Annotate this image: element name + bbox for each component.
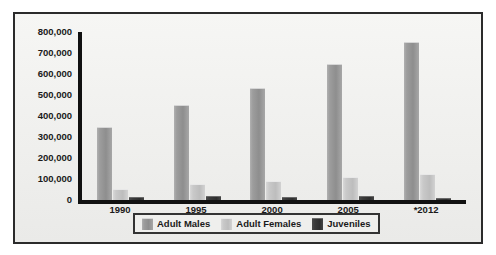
bar-juveniles [359, 196, 374, 200]
bar-juveniles [129, 197, 144, 200]
plot-area: 800,000700,000600,000500,000400,000300,0… [78, 32, 462, 200]
y-axis-tick-label: 300,000 [6, 132, 72, 142]
bar-adult-males [174, 105, 189, 201]
bar-adult-females [343, 177, 358, 200]
bar-juveniles [206, 196, 221, 200]
bar-adult-females [420, 174, 435, 200]
legend-label: Juveniles [327, 218, 370, 229]
bar-adult-males [327, 64, 342, 200]
legend-label: Adult Males [157, 218, 210, 229]
chart-figure: 800,000700,000600,000500,000400,000300,0… [0, 0, 496, 255]
bar-juveniles [282, 197, 297, 200]
bar-group [327, 32, 374, 200]
bar-group [250, 32, 297, 200]
bar-adult-males [250, 88, 265, 200]
bar-juveniles [436, 198, 451, 201]
y-axis-tick-label: 0 [6, 195, 72, 205]
chart-frame: 800,000700,000600,000500,000400,000300,0… [13, 12, 483, 244]
bar-group [404, 32, 451, 200]
bar-adult-females [266, 181, 281, 200]
legend-swatch-icon [221, 218, 232, 230]
chart-legend: Adult MalesAdult FemalesJuveniles [133, 213, 380, 234]
legend-item: Juveniles [312, 218, 370, 230]
bar-adult-females [113, 189, 128, 201]
y-axis-tick-label: 100,000 [6, 174, 72, 184]
legend-item: Adult Males [142, 218, 210, 230]
bar-group [97, 32, 144, 200]
y-axis-tick-label: 400,000 [6, 111, 72, 121]
bar-adult-males [404, 42, 419, 201]
y-axis-tick-label: 700,000 [6, 48, 72, 58]
bar-adult-females [190, 184, 205, 200]
x-axis-tick-label: 1990 [109, 204, 130, 215]
y-axis-tick-label: 200,000 [6, 153, 72, 163]
bar-group [174, 32, 221, 200]
bar-groups [82, 32, 466, 200]
x-axis-tick-label: *2012 [414, 204, 439, 215]
legend-swatch-icon [142, 218, 153, 230]
legend-item: Adult Females [221, 218, 301, 230]
legend-swatch-icon [312, 218, 323, 230]
y-axis-tick-label: 500,000 [6, 90, 72, 100]
chart-panel: 800,000700,000600,000500,000400,000300,0… [15, 14, 481, 242]
bar-adult-males [97, 127, 112, 200]
y-axis-tick-label: 800,000 [6, 27, 72, 37]
y-axis-tick-label: 600,000 [6, 69, 72, 79]
legend-label: Adult Females [236, 218, 301, 229]
